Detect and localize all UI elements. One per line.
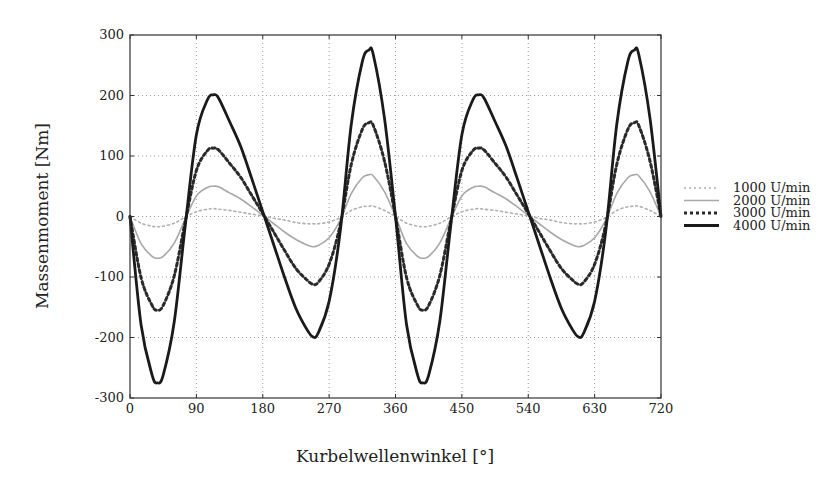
legend-item: 4000 U/min (684, 218, 811, 233)
y-tick-label: -200 (95, 330, 124, 345)
y-tick-label: 300 (99, 27, 124, 42)
legend-label: 4000 U/min (733, 218, 811, 233)
x-tick-label: 360 (383, 401, 408, 416)
x-axis-title: Kurbelwellenwinkel [°] (296, 446, 494, 466)
line-chart: 0901802703604505406307203002001000-100-2… (0, 0, 839, 487)
axis-ticks: 0901802703604505406307203002001000-100-2… (95, 27, 674, 416)
y-axis-title: Massenmoment [Nm] (32, 123, 52, 309)
y-tick-label: -100 (95, 269, 124, 284)
x-tick-label: 450 (449, 401, 474, 416)
x-tick-label: 0 (126, 401, 134, 416)
x-tick-label: 630 (582, 401, 607, 416)
x-tick-label: 180 (250, 401, 275, 416)
y-tick-label: -300 (95, 390, 124, 405)
x-tick-label: 90 (188, 401, 205, 416)
y-tick-label: 200 (99, 88, 124, 103)
y-tick-label: 0 (116, 209, 124, 224)
x-tick-label: 540 (516, 401, 541, 416)
data-series (130, 48, 661, 383)
y-tick-label: 100 (99, 148, 124, 163)
legend: 1000 U/min2000 U/min3000 U/min4000 U/min (684, 180, 811, 233)
x-tick-label: 720 (649, 401, 674, 416)
x-tick-label: 270 (317, 401, 342, 416)
series-line-4000 (130, 48, 661, 383)
